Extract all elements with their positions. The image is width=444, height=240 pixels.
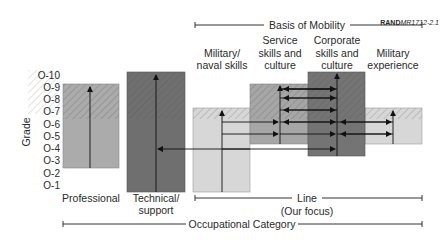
header-service-3: culture xyxy=(264,59,296,71)
svg-text:O-6: O-6 xyxy=(43,119,60,130)
svg-text:O-4: O-4 xyxy=(43,143,60,154)
occupational-category-label: Occupational Category xyxy=(189,218,297,230)
svg-text:O-5: O-5 xyxy=(43,131,60,142)
box-corporate xyxy=(308,72,365,156)
header-service-2: skills and xyxy=(258,47,301,59)
header-corporate-3: culture xyxy=(321,59,353,71)
line-bracket: Line (Our focus) xyxy=(195,192,422,217)
occupational-category-bracket: Occupational Category xyxy=(63,218,422,230)
header-military-naval-2: naval skills xyxy=(197,59,248,71)
svg-text:O-2: O-2 xyxy=(43,168,60,179)
svg-text:O-7: O-7 xyxy=(43,106,60,117)
svg-text:O-9: O-9 xyxy=(43,82,60,93)
mobility-diagram: RANDMR1712-2.1 Basis of Mobility Militar… xyxy=(0,0,444,240)
basis-of-mobility-label: Basis of Mobility xyxy=(269,19,346,31)
header-military-experience-1: Military xyxy=(376,47,410,59)
box-professional xyxy=(63,84,119,168)
svg-text:O-1: O-1 xyxy=(43,180,60,191)
box-technical-support xyxy=(127,72,185,192)
label-professional: Professional xyxy=(62,192,120,204)
y-axis-label: Grade xyxy=(20,117,32,146)
header-corporate-1: Corporate xyxy=(314,34,361,46)
header-military-naval-1: Military/ xyxy=(204,47,240,59)
header-corporate-2: skills and xyxy=(315,47,358,59)
svg-text:O-3: O-3 xyxy=(43,155,60,166)
header-service-1: Service xyxy=(262,34,297,46)
box-military-naval xyxy=(193,108,250,192)
line-subtitle: (Our focus) xyxy=(281,205,334,217)
box-military-experience xyxy=(365,108,422,144)
header-military-experience-2: experience xyxy=(367,59,419,71)
box-service xyxy=(250,84,308,144)
label-technical-2: support xyxy=(138,204,173,216)
label-technical-1: Technical/ xyxy=(133,192,180,204)
svg-text:O-10: O-10 xyxy=(38,70,61,81)
line-label: Line xyxy=(297,192,317,204)
svg-text:O-8: O-8 xyxy=(43,94,60,105)
